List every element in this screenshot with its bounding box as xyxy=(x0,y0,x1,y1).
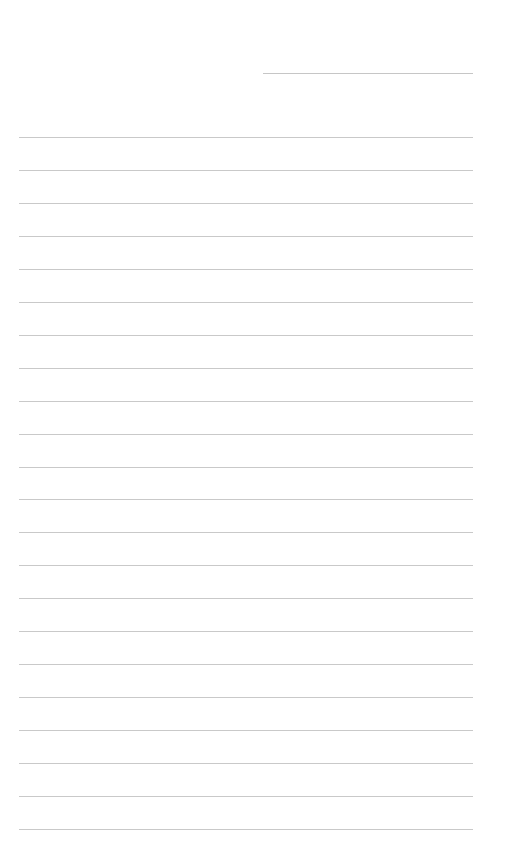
ruled-line xyxy=(19,335,473,336)
ruled-line xyxy=(19,302,473,303)
header-blank-line xyxy=(263,73,473,74)
ruled-line xyxy=(19,203,473,204)
ruled-line xyxy=(19,137,473,138)
ruled-line xyxy=(19,532,473,533)
ruled-line xyxy=(19,236,473,237)
ruled-line xyxy=(19,598,473,599)
ruled-line xyxy=(19,269,473,270)
ruled-line xyxy=(19,170,473,171)
ruled-line xyxy=(19,664,473,665)
lined-page xyxy=(0,0,505,862)
ruled-line xyxy=(19,467,473,468)
ruled-line xyxy=(19,434,473,435)
ruled-line xyxy=(19,796,473,797)
ruled-line xyxy=(19,499,473,500)
ruled-line xyxy=(19,401,473,402)
ruled-line xyxy=(19,697,473,698)
ruled-line xyxy=(19,565,473,566)
ruled-line xyxy=(19,763,473,764)
ruled-line xyxy=(19,631,473,632)
ruled-line xyxy=(19,829,473,830)
ruled-line xyxy=(19,368,473,369)
ruled-line xyxy=(19,730,473,731)
